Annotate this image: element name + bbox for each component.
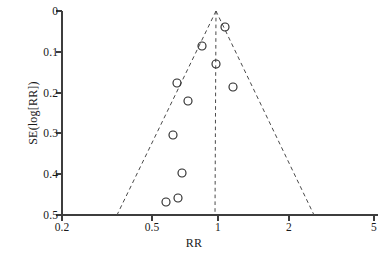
y-tick-label-0: 0 (52, 5, 58, 17)
study-point (174, 194, 182, 202)
x-tick-label-5: 5 (371, 221, 377, 233)
pooled-effect-line (215, 11, 216, 215)
study-points (162, 23, 237, 206)
x-tick-label-2: 2 (286, 221, 292, 233)
y-tick-label-0.1: 0.1 (43, 46, 58, 58)
study-point (169, 131, 177, 139)
study-point (184, 97, 192, 105)
study-point (229, 83, 237, 91)
x-axis-title: RR (0, 236, 388, 251)
funnel-plot: 0 0.1 0.2 0.3 0.4 0.5 0.2 0.5 1 2 5 RR S… (0, 0, 388, 259)
y-tick-label-0.4: 0.4 (43, 168, 58, 180)
funnel-right-bound (216, 11, 314, 215)
study-point (173, 79, 181, 87)
x-tick-label-0.5: 0.5 (145, 221, 160, 233)
study-point (221, 23, 229, 31)
y-tick-label-0.5: 0.5 (43, 209, 58, 221)
y-tick-label-0.3: 0.3 (43, 127, 58, 139)
y-axis-ticks (56, 11, 62, 215)
study-point (162, 198, 170, 206)
y-tick-label-0.2: 0.2 (43, 87, 58, 99)
study-point (178, 169, 186, 177)
x-tick-label-1: 1 (215, 221, 221, 233)
y-axis-title: SE(log[RR]) (26, 81, 41, 145)
x-tick-label-0.2: 0.2 (55, 221, 70, 233)
